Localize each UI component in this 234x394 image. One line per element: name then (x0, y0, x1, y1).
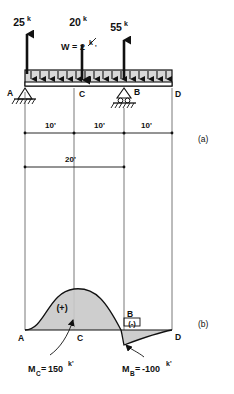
beam-member (25, 70, 172, 86)
point-load-25k: 25 k (13, 15, 31, 74)
part-b-caption: (b) (198, 319, 209, 329)
moment-station-label-d: D (175, 332, 181, 342)
moment-station-label-b: B (127, 309, 133, 319)
distributed-load-prefix: W = (61, 42, 77, 52)
beam-moment-figure: 25 k 20 k 55 k W = 2 k ' (0, 0, 234, 394)
distributed-load-unit-denominator: ' (95, 44, 97, 51)
loading-diagram: 25 k 20 k 55 k W = 2 k ' (7, 15, 181, 108)
dimension-label-bd: 10' (141, 121, 152, 130)
node-marker-d: D (175, 89, 181, 99)
node-label-b: B (134, 87, 140, 97)
annotation-moment-b-equals: = (135, 364, 140, 374)
moment-station-label-c: C (77, 333, 83, 343)
annotation-moment-c-equals: = (41, 364, 46, 374)
dimension-tick-b (123, 132, 126, 135)
negative-region-sign-group: (-) (124, 318, 140, 328)
node-label-c: C (79, 89, 85, 99)
node-label-d: D (175, 89, 181, 99)
support-roller-b: B (111, 87, 140, 108)
figure-root: 25 k 20 k 55 k W = 2 k ' (0, 0, 234, 394)
dimension-label-span: 20' (65, 155, 76, 164)
annotation-moment-c-unit: k' (68, 360, 74, 367)
part-a-caption: (a) (198, 134, 209, 144)
dimension-label-cb: 10' (94, 121, 105, 130)
node-label-a: A (7, 88, 13, 98)
annotation-moment-b-symbol: M (122, 364, 130, 374)
dimension-row-span: 20' (25, 155, 124, 167)
annotation-moment-c-symbol: M (28, 364, 36, 374)
point-load-25k-magnitude: 25 (13, 16, 25, 28)
annotation-moment-b-value: -100 (142, 364, 160, 374)
dimension-row-segments: 10' 10' 10' (25, 121, 172, 135)
annotation-moment-b-unit: k' (166, 360, 172, 367)
bending-moment-diagram: (+) (-) A C B D M C = 150 k' M B = -100 … (18, 289, 181, 377)
support-pin-a: A (7, 88, 36, 104)
point-load-20k-magnitude: 20 (69, 16, 81, 28)
annotation-moment-b: M B = -100 k' (122, 345, 172, 377)
node-marker-c: C (79, 89, 85, 99)
point-load-55k-magnitude: 55 (110, 21, 122, 33)
positive-region-sign: (+) (56, 303, 67, 313)
moment-station-label-a: A (18, 333, 24, 343)
dimension-label-ac: 10' (45, 121, 56, 130)
point-load-25k-unit: k (27, 15, 31, 22)
negative-region-sign: (-) (128, 319, 136, 328)
point-load-55k-unit: k (124, 20, 128, 27)
distributed-load-magnitude: 2 (80, 42, 85, 52)
dimension-tick-c (73, 132, 76, 135)
distributed-load-label: W = 2 k ' (61, 38, 97, 52)
point-load-20k-unit: k (83, 15, 87, 22)
annotation-moment-c-value: 150 (48, 364, 63, 374)
point-load-55k: 55 k (110, 20, 128, 78)
moment-positive-area (25, 289, 121, 330)
